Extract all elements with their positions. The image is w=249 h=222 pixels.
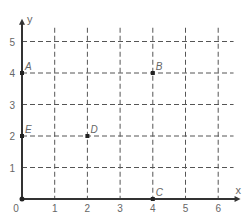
x-tick-label: 0	[13, 203, 19, 214]
y-tick-label: 1	[9, 163, 15, 174]
x-axis-arrow-icon	[235, 196, 241, 202]
x-tick-label: 2	[85, 203, 91, 214]
point-b	[151, 71, 155, 75]
point-label-b: B	[156, 61, 163, 72]
y-tick-label: 5	[9, 37, 15, 48]
grid-lines	[22, 28, 234, 199]
x-tick-label: 6	[215, 203, 221, 214]
point-label-d: D	[90, 124, 97, 135]
y-tick-label: 2	[9, 131, 15, 142]
y-axis-arrow-icon	[19, 19, 25, 25]
point-label-e: E	[25, 124, 32, 135]
point-a	[20, 71, 24, 75]
data-points: ABCDE	[20, 61, 164, 202]
point-label-c: C	[156, 187, 164, 198]
x-axis-label: x	[236, 184, 242, 196]
point-c	[151, 197, 155, 201]
point-d	[85, 134, 89, 138]
point-e	[20, 134, 24, 138]
x-tick-label: 1	[52, 203, 58, 214]
point-label-a: A	[24, 61, 32, 72]
x-tick-label: 5	[183, 203, 189, 214]
tick-labels: 012345612345	[9, 37, 221, 215]
y-tick-label: 3	[9, 100, 15, 111]
x-tick-label: 4	[150, 203, 156, 214]
origin-point	[20, 197, 25, 202]
y-tick-label: 4	[9, 68, 15, 79]
x-tick-label: 3	[117, 203, 123, 214]
y-axis-label: y	[27, 13, 33, 25]
coordinate-plane: xy 012345612345 ABCDE	[0, 0, 249, 222]
